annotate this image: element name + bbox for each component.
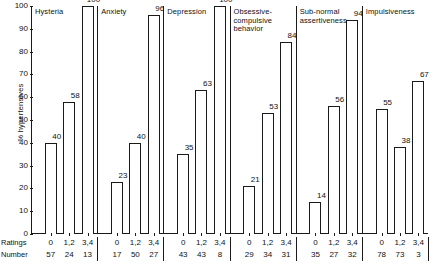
x-tick-mark <box>334 233 335 236</box>
x-tick-mark <box>183 233 184 236</box>
bar <box>309 202 321 234</box>
chart-panel: Anxiety234096 <box>97 6 163 234</box>
x-tick-mark <box>88 233 89 236</box>
bar <box>195 90 207 234</box>
x-tick-mark <box>418 233 419 236</box>
x-tick-mark <box>154 233 155 236</box>
x-tick-mark <box>352 233 353 236</box>
panel-title: Obsessive- compulsive behavior <box>234 8 296 34</box>
table-separator <box>163 237 164 261</box>
bar <box>82 6 94 234</box>
plot-area: Hysteria4058100Anxiety234096Depression35… <box>31 6 428 234</box>
table-separator <box>296 237 297 261</box>
x-tick-mark <box>69 233 70 236</box>
panel-divider <box>97 6 98 234</box>
panel-divider <box>163 6 164 234</box>
table-separator <box>230 237 231 261</box>
x-tick-mark <box>268 233 269 236</box>
number-cell: 27 <box>142 250 166 259</box>
table-separator <box>362 237 363 261</box>
bar <box>346 20 358 234</box>
rating-cell: 3,4 <box>208 238 232 247</box>
bar <box>111 182 123 234</box>
rating-cell: 3,4 <box>340 238 364 247</box>
chart-panel: Hysteria4058100 <box>31 6 97 234</box>
rating-cell: 3,4 <box>274 238 298 247</box>
panel-divider <box>362 6 363 234</box>
number-cell: 3 <box>406 250 430 259</box>
x-tick-mark <box>400 233 401 236</box>
rating-cell: 3,4 <box>406 238 430 247</box>
chart-panel: Sub-normal assertiveness145694 <box>296 6 362 234</box>
chart-panel: Depression3563100 <box>163 6 229 234</box>
table-separator <box>428 237 429 261</box>
bar-value-label: 100 <box>81 0 107 4</box>
x-tick-mark <box>315 233 316 236</box>
row-label-ratings: Ratings <box>0 238 31 247</box>
row-label-number: Number <box>0 250 31 259</box>
bar-value-label: 100 <box>213 0 239 4</box>
x-tick-mark <box>201 233 202 236</box>
rating-cell: 3,4 <box>76 238 100 247</box>
bar-chart: 0102030405060708090100 % hypertensives H… <box>0 0 433 270</box>
number-cell: 32 <box>340 250 364 259</box>
bar <box>262 113 274 234</box>
x-tick-mark <box>220 233 221 236</box>
number-cell: 31 <box>274 250 298 259</box>
bar-value-label: 55 <box>375 98 401 107</box>
x-tick-mark <box>117 233 118 236</box>
bar <box>394 147 406 234</box>
table-separator <box>97 237 98 261</box>
bar <box>280 42 292 234</box>
x-tick-mark <box>51 233 52 236</box>
chart-panel: Obsessive- compulsive behavior215384 <box>230 6 296 234</box>
x-tick-mark <box>249 233 250 236</box>
number-cell: 8 <box>208 250 232 259</box>
bar <box>148 15 160 234</box>
bottom-data-table: Ratings Number 0571,2243,4130171,2503,42… <box>0 236 433 270</box>
panel-divider <box>230 6 231 234</box>
x-tick-mark <box>382 233 383 236</box>
y-tick-mark <box>30 234 33 235</box>
bar <box>63 102 75 234</box>
bar <box>328 106 340 234</box>
y-tick-label: 10 <box>6 207 28 215</box>
bar <box>412 81 424 234</box>
panel-divider <box>296 6 297 234</box>
x-tick-mark <box>135 233 136 236</box>
bar <box>129 143 141 234</box>
bar <box>214 6 226 234</box>
panel-title: Impulsiveness <box>366 8 428 17</box>
rating-cell: 3,4 <box>142 238 166 247</box>
y-axis-title: % hypertensives <box>16 33 25 193</box>
x-tick-mark <box>286 233 287 236</box>
bar <box>243 186 255 234</box>
chart-panel: Impulsiveness553867 <box>362 6 428 234</box>
number-cell: 13 <box>76 250 100 259</box>
bar-value-label: 67 <box>411 70 433 79</box>
y-tick-label: 100 <box>6 2 28 10</box>
bar <box>177 154 189 234</box>
bar <box>376 109 388 234</box>
bar <box>45 143 57 234</box>
